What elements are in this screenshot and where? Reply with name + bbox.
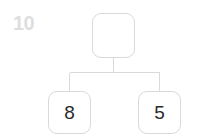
diagram-canvas: 10 8 5 xyxy=(0,0,197,139)
tree-node-right-child[interactable]: 5 xyxy=(138,91,181,134)
tree-node-left-child-label: 8 xyxy=(64,103,75,122)
tree-node-left-child[interactable]: 8 xyxy=(48,91,91,134)
tree-node-root[interactable] xyxy=(92,13,135,58)
tree-node-right-child-label: 5 xyxy=(154,103,165,122)
